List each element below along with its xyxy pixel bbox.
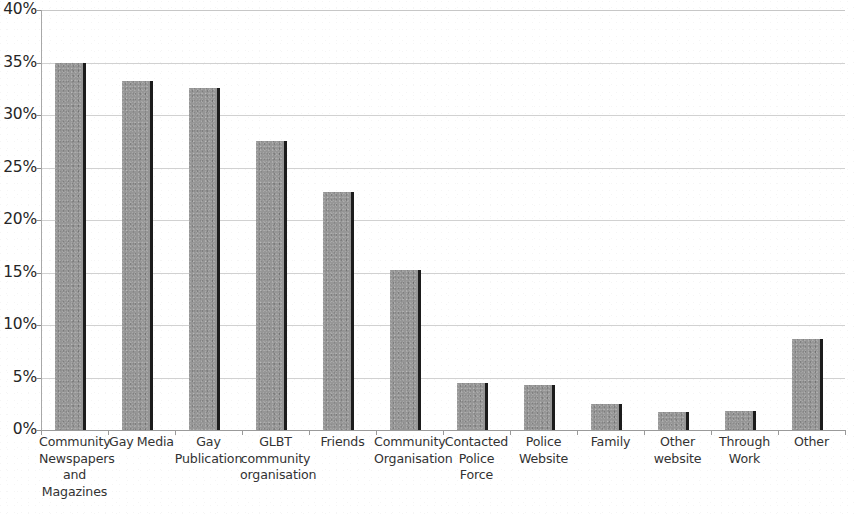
bar [591,404,622,430]
y-tick-label: 40% [0,2,37,18]
x-category-label-line: Community [374,434,445,451]
y-tick-label: 0% [0,422,37,438]
x-category-label: CommunityNewspapersandMagazines [39,434,110,500]
bar-series [41,10,845,430]
x-category-label-line: Organisation [374,451,445,468]
x-category-label: ContactedPolice Force [441,434,512,484]
x-category-label: Otherwebsite [642,434,713,467]
bar [792,339,823,430]
bar [390,270,421,430]
x-category-label-line: Contacted [441,434,512,451]
x-category-label-line: Magazines [39,484,110,501]
x-category-label: Other [776,434,847,451]
y-tick-label: 35% [0,55,37,71]
x-category-label: GayPublication [173,434,244,467]
x-category-label-line: and [39,467,110,484]
x-category-label: GLBTcommunityorganisation [240,434,311,484]
x-category-label-line: Friends [307,434,378,451]
x-category-label: CommunityOrganisation [374,434,445,467]
y-tick-label: 15% [0,265,37,281]
bar [725,411,756,430]
x-category-label: Friends [307,434,378,451]
y-tick-label: 10% [0,317,37,333]
x-category-label-line: Other [776,434,847,451]
y-tick-label: 25% [0,160,37,176]
x-category-label-line: Other [642,434,713,451]
x-category-label-line: Family [575,434,646,451]
x-axis-category-labels: CommunityNewspapersandMagazinesGay Media… [41,434,854,516]
x-category-label-line: Gay [173,434,244,451]
bar [189,88,220,430]
x-category-label: PoliceWebsite [508,434,579,467]
bar [658,412,689,430]
y-tick-label: 30% [0,107,37,123]
x-category-label-line: Work [709,451,780,468]
x-category-label-line: Police [508,434,579,451]
x-category-label-line: Website [508,451,579,468]
bar-chart: 0%5%10%15%20%25%30%35%40% CommunityNewsp… [0,0,854,516]
bar [457,383,488,430]
x-category-label-line: Police Force [441,451,512,484]
x-category-label-line: website [642,451,713,468]
x-category-label-line: Through [709,434,780,451]
bar [122,81,153,430]
x-category-label-line: Publication [173,451,244,468]
x-category-label-line: GLBT [240,434,311,451]
bar [524,385,555,430]
bar [323,192,354,430]
x-category-label-line: organisation [240,467,311,484]
bar [256,141,287,430]
x-category-label-line: community [240,451,311,468]
x-category-label-line: Newspapers [39,451,110,468]
x-category-label: ThroughWork [709,434,780,467]
y-axis-tick-labels: 0%5%10%15%20%25%30%35%40% [0,0,37,516]
y-tick-label: 20% [0,212,37,228]
x-category-label-line: Gay Media [106,434,177,451]
y-tick-label: 5% [0,370,37,386]
bar [55,63,86,431]
x-category-label: Family [575,434,646,451]
x-category-label: Gay Media [106,434,177,451]
x-category-label-line: Community [39,434,110,451]
